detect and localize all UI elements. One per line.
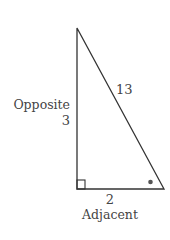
right-angle-marker bbox=[77, 180, 85, 189]
angle-dot-marker bbox=[148, 180, 153, 185]
hypotenuse-value: 13 bbox=[116, 82, 133, 97]
right-triangle bbox=[77, 28, 164, 189]
adjacent-label: Adjacent bbox=[81, 207, 138, 222]
opposite-label: Opposite bbox=[13, 97, 70, 112]
triangle-diagram: 13 Opposite 3 2 Adjacent bbox=[0, 0, 170, 240]
opposite-value: 3 bbox=[62, 113, 70, 128]
adjacent-value: 2 bbox=[106, 192, 114, 207]
